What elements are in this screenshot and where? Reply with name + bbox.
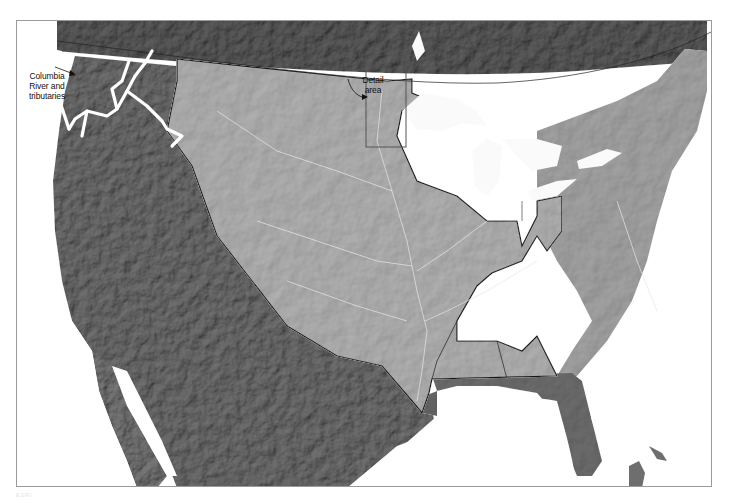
- detail-label-line-1: Detail: [358, 75, 388, 85]
- columbia-label-line-2: River and: [19, 81, 75, 91]
- lake-michigan: [472, 139, 502, 196]
- columbia-river-label: Columbia River and tributaries: [19, 71, 75, 101]
- columbia-label-line-1: Columbia: [19, 71, 75, 81]
- detail-area-label: Detail area: [358, 75, 388, 95]
- columbia-label-line-3: tributaries: [19, 91, 75, 101]
- lake-huron: [502, 139, 562, 171]
- detail-label-line-2: area: [358, 85, 388, 95]
- watermark: ESRI: [16, 492, 32, 498]
- map-frame: Columbia River and tributaries Detail ar…: [16, 20, 712, 487]
